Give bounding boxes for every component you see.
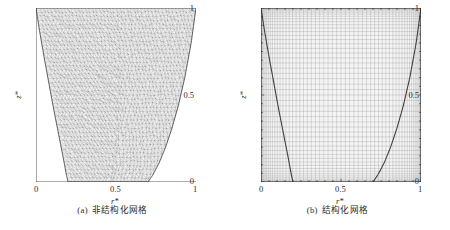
y-tick-label-05: 0.5 bbox=[183, 91, 194, 100]
y-tick-label-1: 1 bbox=[415, 4, 419, 13]
panel-a-caption: (a)非结构化网格 bbox=[0, 203, 225, 215]
x-tick-label-1: 1 bbox=[193, 185, 197, 194]
panel-b-caption: (b)结构化网格 bbox=[225, 203, 450, 215]
y-axis-title: z* bbox=[238, 91, 248, 99]
structured-mesh-plot bbox=[261, 8, 421, 182]
x-tick-label-0: 0 bbox=[34, 185, 38, 194]
plot-area-a: 1 0.5 0 0 0.5 1 r* z* bbox=[36, 8, 196, 182]
panel-b-structured: 1 0.5 0 0 0.5 1 r* z* (b)结构化网格 bbox=[225, 0, 450, 230]
x-tick-label-1: 1 bbox=[418, 185, 422, 194]
plot-area-b: 1 0.5 0 0 0.5 1 r* z* bbox=[261, 8, 421, 182]
y-axis-title: z* bbox=[13, 91, 23, 99]
panel-a-caption-index: (a) bbox=[77, 205, 87, 215]
x-tick-label-05: 0.5 bbox=[335, 185, 346, 194]
y-tick-label-05: 0.5 bbox=[408, 91, 419, 100]
panel-a-caption-text: 非结构化网格 bbox=[92, 205, 148, 215]
y-tick-label-1: 1 bbox=[190, 4, 194, 13]
x-tick-label-05: 0.5 bbox=[110, 185, 121, 194]
figure-root: 1 0.5 0 0 0.5 1 r* z* (a)非结构化网格 bbox=[0, 0, 450, 230]
unstructured-mesh-plot bbox=[36, 8, 196, 182]
panel-b-caption-text: 结构化网格 bbox=[322, 205, 369, 215]
x-tick-label-0: 0 bbox=[259, 185, 263, 194]
panel-a-unstructured: 1 0.5 0 0 0.5 1 r* z* (a)非结构化网格 bbox=[0, 0, 225, 230]
bottom-partial-caption bbox=[0, 223, 450, 230]
panel-b-caption-index: (b) bbox=[307, 205, 318, 215]
